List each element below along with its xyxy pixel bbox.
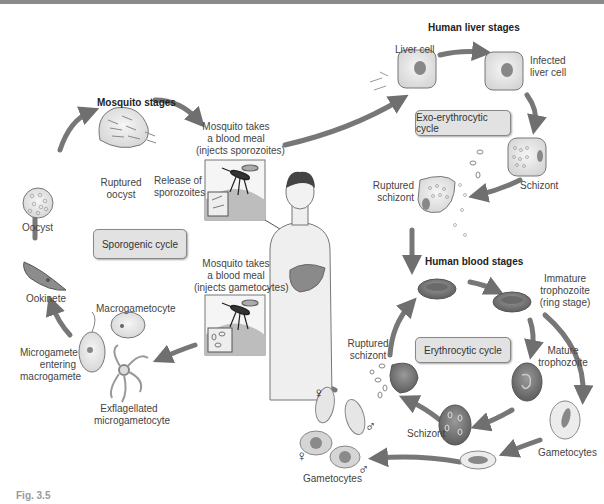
label-line: Exflagellated <box>94 403 164 415</box>
section-human-liver-stages: Human liver stages <box>428 22 520 33</box>
label-infected-liver-cell: Infected liver cell <box>530 55 566 79</box>
label-line: Immature <box>532 273 598 285</box>
infected-liver-cell-icon <box>485 52 523 90</box>
label-line: Ruptured <box>370 180 414 192</box>
label-ookinete: Ookinete <box>26 293 66 305</box>
label-line: schizont <box>346 350 390 362</box>
ookinete-icon <box>24 262 66 290</box>
arrow-rbc-to-ring <box>470 282 495 290</box>
arrow-mature-to-schizont <box>480 410 512 425</box>
ruptured-oocyst-icon <box>99 107 156 147</box>
label-line: Mosquito takes <box>196 121 276 133</box>
life-cycle-diagram <box>0 0 604 504</box>
female-symbol-icon: ♀ <box>313 385 324 400</box>
label-line: (injects sporozoites) <box>196 145 276 157</box>
arrow-ruptured-to-rbc <box>390 305 410 355</box>
arrow-ring-to-mature <box>530 320 533 350</box>
arrow-schizont-to-ruptured-blood <box>408 400 440 420</box>
label-line: a blood meal <box>194 270 278 282</box>
label-liver-schizont: Schizont <box>520 180 558 192</box>
exflagellated-microgametocyte-icon <box>111 345 148 402</box>
label-line: a blood meal <box>196 133 276 145</box>
mosquito-feeding-sporozoites-icon <box>205 160 288 235</box>
label-liver-ruptured-schizont: Ruptured schizont <box>370 180 414 204</box>
blood-ruptured-schizont-icon <box>370 363 418 398</box>
microgamete-entering-macrogamete-icon <box>79 312 105 372</box>
arrow-mosquito-to-liver <box>285 100 400 145</box>
exo-erythrocytic-cycle-box: Exo-erythrocytic cycle <box>415 110 511 136</box>
liver-schizont-icon <box>508 138 546 176</box>
red-blood-cell-icon <box>418 279 456 299</box>
label-line: Mosquito takes <box>194 258 278 270</box>
label-line: trophozoite <box>535 357 591 369</box>
male-symbol-icon: ♂ <box>358 461 369 476</box>
label-line: Microgamete <box>20 347 76 359</box>
gametocyte-elongated-icon <box>550 401 580 439</box>
arrow-gametocyte-to-gametocyte-pair <box>508 440 540 452</box>
label-immature-trophozoite: Immature trophozoite (ring stage) <box>532 273 598 309</box>
label-line: liver cell <box>530 67 566 79</box>
label-line: sporozoites <box>154 187 202 199</box>
male-symbol-icon: ♂ <box>365 418 376 433</box>
section-mosquito-stages: Mosquito stages <box>97 97 176 108</box>
arrow-oocyst-to-ruptured-oocyst <box>60 112 90 150</box>
label-line: oocyst <box>100 189 142 201</box>
label-mosquito-meal-sporozoites: Mosquito takes a blood meal (injects spo… <box>196 121 276 157</box>
section-human-blood-stages: Human blood stages <box>425 256 523 267</box>
label-blood-schizont: Schizont <box>407 428 445 440</box>
arrow-gametes-to-ookinete <box>52 305 70 335</box>
label-line: entering <box>20 359 76 371</box>
label-line: Mature <box>535 345 591 357</box>
label-gametocytes-left: Gametocytes <box>303 473 362 485</box>
label-line: microgametocyte <box>94 415 164 427</box>
label-line: Infected <box>530 55 566 67</box>
label-line: Ruptured <box>100 177 142 189</box>
liver-ruptured-schizont-icon <box>418 150 483 237</box>
label-line: (ring stage) <box>532 297 598 309</box>
label-ruptured-oocyst: Ruptured oocyst <box>100 177 142 201</box>
label-exflagellated-microgametocyte: Exflagellated microgametocyte <box>94 403 164 427</box>
macrogametocyte-icon <box>111 312 145 338</box>
label-gametocytes-right: Gametocytes <box>538 447 597 459</box>
ring-stage-trophozoite-icon <box>493 292 531 312</box>
label-line: Ruptured <box>346 338 390 350</box>
arrow-gametocytes-to-left-group <box>378 457 460 462</box>
erythrocytic-cycle-box: Erythrocytic cycle <box>415 337 511 363</box>
label-line: (injects gametocytes) <box>194 282 278 294</box>
label-oocyst: Oocyst <box>22 222 53 234</box>
female-symbol-icon: ♀ <box>296 448 307 463</box>
label-release-sporozoites: Release of sporozoites <box>154 175 202 199</box>
label-blood-ruptured-schizont: Ruptured schizont <box>346 338 390 362</box>
label-mosquito-meal-gametocytes: Mosquito takes a blood meal (injects gam… <box>194 258 278 294</box>
label-line: Release of <box>154 175 202 187</box>
label-microgamete-entering-macrogamete: Microgamete entering macrogamete <box>20 347 76 383</box>
sporogenic-cycle-box: Sporogenic cycle <box>93 229 187 259</box>
oocyst-icon <box>23 188 53 218</box>
gametocyte-flat-icon <box>460 451 496 469</box>
arrow-infected-to-schizont <box>527 95 536 125</box>
label-line: macrogamete <box>20 371 76 383</box>
arrow-schizont-to-ruptured <box>478 180 520 195</box>
arrow-liver-cell-to-infected <box>440 51 482 55</box>
figure-caption: Fig. 3.5 <box>16 490 50 501</box>
arrow-mosquito-to-gametes <box>162 345 195 358</box>
label-macrogametocyte: Macrogametocyte <box>96 303 175 315</box>
label-mature-trophozoite: Mature trophozoite <box>535 345 591 369</box>
label-line: schizont <box>370 192 414 204</box>
label-line: trophozoite <box>532 285 598 297</box>
sporozoite-streaks-icon <box>370 72 388 90</box>
label-liver-cell: Liver cell <box>395 44 434 56</box>
